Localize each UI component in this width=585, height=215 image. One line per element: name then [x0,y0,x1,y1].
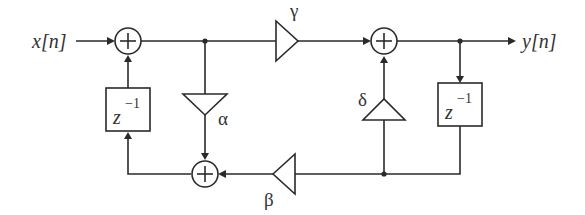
gain-label-delta: δ [358,89,367,110]
gain-beta: β [264,154,295,210]
delay-base: z [112,106,121,128]
arrow-into-adder3-top [201,153,209,160]
wire-delay-right-to-beta [295,126,460,174]
arrow-into-adder3-right [218,170,226,178]
junctions [202,38,462,176]
delay-right: z −1 [438,83,482,126]
arrow-into-adder1-bottom [124,55,132,62]
gain-triangle-up [363,99,405,120]
block-diagram: z −1 z −1 γ α β δ x[n] y[n] [0,0,585,215]
adder-input [115,28,141,54]
junction-dot-top-left [202,38,207,43]
delay-left: z −1 [106,88,150,131]
junction-dot-top-right [457,38,462,43]
delay-base: z [444,101,453,123]
junction-dot-bottom-right [381,171,386,176]
input-label: x[n] [31,30,66,52]
arrow-into-delay-left [124,132,132,139]
arrow-into-adder2-bottom [380,56,388,63]
output-label: y[n] [520,30,556,53]
gain-label-gamma: γ [289,0,298,21]
gain-label-beta: β [264,189,274,210]
arrow-into-delay-right [456,76,464,83]
wire-adder3-to-delay-left [128,134,191,174]
delay-exponent: −1 [457,91,472,106]
gain-triangle-right [276,21,298,61]
arrow-into-adder1-left [107,37,115,45]
gain-gamma: γ [276,0,298,61]
arrow-output [508,37,516,45]
adder-feedback [192,161,218,187]
gain-triangle-left [273,154,295,194]
adder-output [371,28,397,54]
arrow-into-adder2-left [363,37,371,45]
gain-label-alpha: α [218,108,228,129]
delay-exponent: −1 [125,96,140,111]
gain-delta: δ [358,89,405,120]
